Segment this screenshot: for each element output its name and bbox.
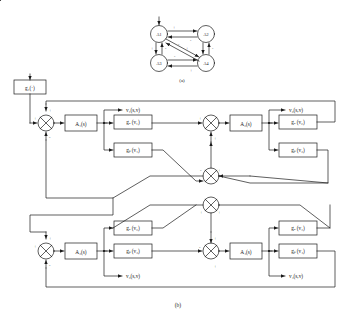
wire-m1-to-sum1-bottom — [46, 140, 203, 198]
wire-to-gb1 — [104, 123, 113, 150]
block-a2s-label: A₂(s) — [240, 121, 251, 128]
sign-m1-right: + — [218, 168, 221, 173]
block-gb-v4-label: gᵦ (v₄) — [291, 248, 305, 255]
figure-container: A1 A2 A3 A4 + - + - - - + + - (a) — [0, 0, 347, 321]
wire-ga4-feedback — [317, 205, 330, 228]
tap-v2-dot — [0, 0, 1, 1]
sign-sum4-bottom: + — [214, 264, 217, 269]
block-a3s-label: A₃(s) — [75, 249, 86, 256]
wire-v3-output — [104, 251, 122, 276]
sign-sum4-left: - — [199, 245, 201, 250]
block-ga-v1-label: gₐ (v₁) — [126, 119, 140, 126]
caption-a: (a) — [179, 78, 185, 83]
wire-to-ga4 — [269, 228, 278, 251]
wire-v4-output — [269, 251, 285, 276]
node-a2-label: A2 — [203, 32, 208, 37]
sign-sum1-bottom: - — [49, 135, 51, 140]
sign-sum2-left: + — [199, 116, 202, 121]
sign-sum3-top: + — [49, 236, 52, 241]
block-ga-v4-label: gₐ (v₄) — [291, 225, 305, 232]
sign-a2-a1: - — [190, 38, 192, 43]
wire-gb2-diag — [250, 176, 328, 183]
block-labels: g₁(·) A₁(s) A₂(s) A₃(s) A₄(s) gₐ (v₁) gᵦ… — [25, 85, 305, 280]
output-v3-label: v₃(s,v) — [126, 273, 140, 280]
block-gb-v3-label: gᵦ (v₃) — [126, 248, 140, 255]
node-a4-label: A4 — [203, 61, 209, 66]
output-v2-label: v₂(s,v) — [289, 107, 303, 114]
wire-ga3-cross — [152, 205, 196, 228]
wire-m2-right — [219, 205, 330, 228]
wire-to-gb2 — [269, 123, 278, 150]
sign-a4-a3: + — [190, 68, 193, 73]
output-v4-label: v₄(s,v) — [289, 273, 303, 280]
edge-a4-a1 — [166, 43, 199, 61]
block-ga-v3-label: gₐ (v₃) — [126, 225, 140, 232]
sign-m1-left: - — [200, 168, 202, 173]
caption-b: (b) — [175, 302, 182, 309]
graph-b-group: g₁(·) A₁(s) A₂(s) A₃(s) A₄(s) gₐ (v₁) gᵦ… — [0, 0, 335, 309]
wire-v2-output — [269, 110, 285, 123]
block-a1s-label: A₁(s) — [75, 121, 86, 128]
sign-a3-a4: - — [174, 54, 176, 59]
node-a3-label: A3 — [156, 61, 161, 66]
sum-sign-labels: + + - + + + + - + - + - + + + — [34, 108, 221, 269]
sign-a1-a4: + — [186, 46, 189, 51]
sign-a1-a2: + — [173, 25, 176, 30]
sign-a1-a3: + — [151, 46, 154, 51]
graph-a-group: A1 A2 A3 A4 + - + - - - + + - (a) — [151, 17, 215, 83]
output-v1-label: v₁(s,v) — [126, 107, 140, 114]
sign-sum1-left: + — [34, 116, 37, 121]
wire-gb4-feedback-to-sum3 — [46, 251, 335, 287]
sign-sum3-left: + — [34, 244, 37, 249]
block-g1-input-label: g₁(·) — [25, 85, 35, 92]
block-gb-v1-label: gᵦ (v₁) — [126, 147, 140, 154]
wire-v1-output — [104, 110, 122, 123]
sign-sum4-top: + — [214, 236, 217, 241]
block-ga-v2-label: gₐ (v₂) — [291, 119, 305, 126]
block-a4s-label: A₄(s) — [240, 249, 251, 256]
sign-a3-a1: - — [165, 46, 167, 51]
sign-sum1-top: + — [49, 108, 52, 113]
wire-to-ga3 — [104, 228, 113, 251]
sign-a4-a2: - — [212, 46, 214, 51]
edge-a1-a4 — [166, 39, 199, 57]
block-gb-v2-label: gᵦ (v₂) — [291, 147, 305, 154]
sign-m2-left: + — [200, 210, 203, 215]
sign-m2-right: + — [218, 210, 221, 215]
node-a1-label: A1 — [156, 32, 161, 37]
sign-sum3-bottom: - — [49, 263, 51, 268]
figure-svg: A1 A2 A3 A4 + - + - - - + + - (a) — [0, 0, 347, 321]
wire-mid-to-sum3-top — [30, 198, 113, 232]
sign-sum2-bottom: + — [214, 136, 217, 141]
